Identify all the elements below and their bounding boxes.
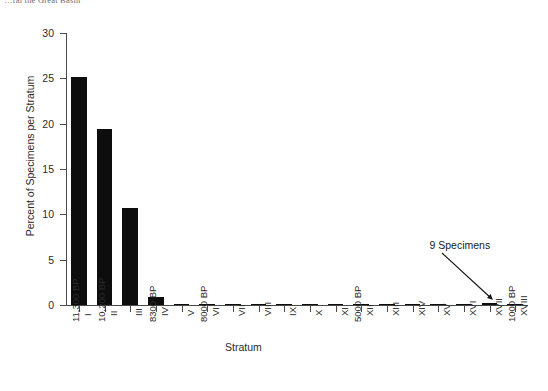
- bar: [71, 77, 87, 305]
- caption-fragment: …ral the Great Basin: [4, 0, 80, 5]
- x-tick-label: XV: [442, 303, 452, 316]
- y-tick: [60, 305, 66, 306]
- x-tick: [130, 306, 131, 312]
- x-tick-label: XVIII: [519, 295, 529, 316]
- x-tick-label: XIV: [417, 301, 427, 316]
- x-tick: [284, 306, 285, 312]
- x-tick: [464, 306, 465, 312]
- bar: [302, 304, 318, 305]
- x-tick-label: III: [134, 308, 144, 316]
- x-tick-label: IV: [160, 307, 170, 316]
- x-tick: [438, 306, 439, 312]
- x-date-label: 8000 BP: [199, 286, 209, 322]
- x-tick-label: IX: [288, 307, 298, 316]
- x-tick-label: VIII: [263, 302, 273, 316]
- x-tick-label: VII: [237, 304, 247, 316]
- bar: [328, 304, 344, 305]
- bar: [174, 304, 190, 305]
- x-tick: [336, 306, 337, 312]
- y-tick-label: 0: [14, 300, 54, 311]
- x-tick-label: XIII: [391, 302, 401, 316]
- x-date-label: 11,300 BP: [71, 278, 81, 322]
- annotation-label-9-specimens: 9 Specimens: [430, 239, 491, 251]
- y-tick-label: 5: [14, 255, 54, 266]
- x-tick-label: II: [109, 311, 119, 316]
- bar: [122, 208, 138, 305]
- x-tick-label: XVII: [494, 298, 504, 316]
- x-tick: [413, 306, 414, 312]
- x-tick: [310, 306, 311, 312]
- x-date-label: 8300 BP: [148, 286, 158, 322]
- x-tick: [182, 306, 183, 312]
- x-tick-label: XI: [340, 307, 350, 316]
- x-tick: [490, 306, 491, 312]
- bar-series: [66, 33, 528, 305]
- y-tick-label: 30: [14, 28, 54, 39]
- x-date-label: 5000 BP: [353, 286, 363, 322]
- x-tick-label: I: [83, 313, 93, 316]
- x-axis-line: [66, 305, 528, 306]
- x-date-label: 10,200 BP: [97, 278, 107, 322]
- y-axis-label: Percent of Specimens per Stratum: [24, 56, 36, 256]
- x-tick: [259, 306, 260, 312]
- x-tick-label: X: [314, 310, 324, 316]
- x-date-label: 1000 BP: [507, 286, 517, 322]
- x-axis-label: Stratum: [225, 341, 262, 353]
- x-tick: [387, 306, 388, 312]
- figure: …ral the Great Basin 051015202530 Percen…: [0, 0, 548, 391]
- bar: [276, 304, 292, 305]
- x-tick: [233, 306, 234, 312]
- x-tick-label: XVI: [468, 301, 478, 316]
- x-tick-label: XII: [365, 304, 375, 316]
- x-tick-label: VI: [211, 307, 221, 316]
- x-tick-label: V: [186, 310, 196, 316]
